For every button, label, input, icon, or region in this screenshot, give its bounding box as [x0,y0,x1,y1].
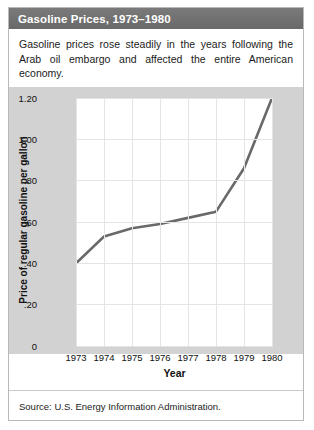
y-axis-tick-label: .60 [24,216,37,227]
x-axis-tick-label: 1979 [233,352,254,363]
source-note: Source: U.S. Energy Information Administ… [9,390,303,420]
gridline-vertical [216,98,217,347]
x-axis-tick-label: 1977 [177,352,198,363]
gridline-vertical [104,98,105,347]
gridline-vertical [244,98,245,347]
y-axis-tick-label: .20 [24,299,37,310]
y-axis-tick-label: 0 [32,340,37,351]
x-axis-tick-label: 1980 [261,352,282,363]
gridline-vertical [76,98,77,347]
y-axis-tick-label: .80 [24,175,37,186]
y-axis-tick-label: .40 [24,257,37,268]
plot-area [76,98,273,347]
x-axis-tick-label: 1974 [93,352,114,363]
figure-title-bar: Gasoline Prices, 1973–1980 [9,8,303,29]
x-axis-tick-label: 1973 [65,352,86,363]
x-axis-title: Year [76,367,273,379]
gridline-vertical [160,98,161,347]
figure-description: Gasoline prices rose steadily in the yea… [9,29,303,87]
x-axis-tick-label: 1975 [121,352,142,363]
x-axis-tick-label: 1976 [149,352,170,363]
figure-title: Gasoline Prices, 1973–1980 [18,13,171,25]
gridline-vertical [272,98,273,347]
gridline-vertical [188,98,189,347]
y-axis-tick-label: 1.20 [19,92,38,103]
y-axis-tick-label: 1.00 [19,133,38,144]
gridline-vertical [132,98,133,347]
chart-panel: Price of regular gasoline per gallon 0.2… [9,87,303,354]
figure-card: Gasoline Prices, 1973–1980 Gasoline pric… [8,7,304,421]
x-axis-tick-label: 1978 [205,352,226,363]
